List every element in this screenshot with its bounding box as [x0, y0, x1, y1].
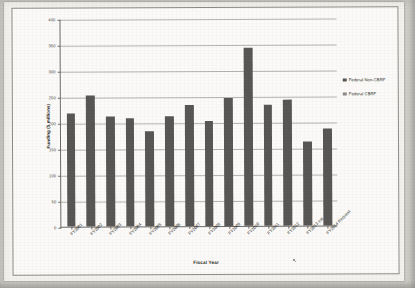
paper-sheet: Funding ($ millions) 4003503002502001501…	[4, 2, 404, 281]
bar-series-group: FY2001FY2002FY2003FY2004FY2005FY2006FY20…	[60, 18, 337, 226]
bar-group: FY2008	[198, 19, 219, 226]
bar	[106, 116, 115, 226]
bar-group: FY2010	[238, 19, 259, 226]
y-tick-label: 150	[49, 147, 56, 152]
bar-group: FY2013 est.	[297, 19, 318, 226]
bar	[283, 99, 292, 225]
y-tick-label: 400	[48, 17, 55, 22]
bar-group: FY2002	[80, 19, 101, 226]
y-tick-label: 200	[49, 121, 56, 126]
bar	[323, 128, 332, 225]
scan-right-smudge	[409, 0, 415, 288]
y-tick-label: 350	[48, 43, 55, 48]
y-tick-label: 0	[54, 225, 56, 230]
plot-area: 400350300250200150100500 FY2001FY2002FY2…	[59, 18, 337, 227]
chart-container: Funding ($ millions) 4003503002502001501…	[11, 6, 399, 276]
bar	[145, 131, 154, 226]
bar-group: FY2005	[139, 19, 160, 226]
bar	[204, 121, 213, 226]
x-axis-title: Fiscal Year	[14, 259, 399, 266]
bar	[165, 116, 174, 226]
legend-item-federal-non-cbrf: Federal Non-CBRF	[343, 77, 405, 82]
bar-group: FY2004	[120, 19, 141, 226]
scanned-page: Funding ($ millions) 4003503002502001501…	[0, 0, 415, 288]
legend-swatch-icon	[343, 78, 347, 82]
y-tick-label: 300	[49, 69, 56, 74]
bar	[264, 105, 273, 226]
bar-group: FY2014 Request	[317, 18, 338, 225]
legend-swatch-icon	[343, 92, 347, 96]
bar	[126, 118, 135, 226]
bar	[224, 98, 233, 226]
bar	[86, 95, 95, 226]
bar-group: FY2001	[60, 20, 81, 227]
bar-group: FY2012	[277, 19, 298, 226]
bar	[244, 48, 253, 226]
bar-group: FY2003	[100, 19, 121, 226]
bar	[303, 142, 312, 226]
bar-group: FY2006	[159, 19, 180, 226]
scan-bottom-smudge	[0, 281, 415, 288]
bar-group: FY2007	[179, 19, 200, 226]
bar	[66, 113, 75, 226]
scan-speck	[295, 261, 296, 262]
y-tick-label: 100	[49, 173, 56, 178]
chart-legend: Federal Non-CBRF Federal CBRF	[343, 77, 405, 105]
legend-label: Federal CBRF	[349, 91, 376, 96]
legend-label: Federal Non-CBRF	[349, 77, 386, 82]
y-tick-label: 50	[51, 199, 56, 204]
bar	[185, 105, 194, 226]
bar-group: FY2011	[258, 19, 279, 226]
legend-item-federal-cbrf: Federal CBRF	[343, 91, 405, 96]
bar-group: FY2009	[218, 19, 239, 226]
y-tick-label: 250	[49, 95, 56, 100]
y-tick-mark	[58, 228, 61, 229]
